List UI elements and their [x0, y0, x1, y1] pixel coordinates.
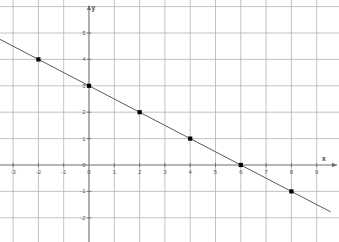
- y-tick-label: -1: [80, 188, 85, 194]
- y-tick-label: 0: [82, 162, 85, 168]
- line-series: [0, 39, 331, 212]
- data-point: [239, 163, 243, 167]
- axes-lines: [0, 5, 337, 242]
- data-point: [188, 137, 192, 141]
- y-tick-label: -2: [80, 215, 85, 221]
- x-axis-label: x: [322, 156, 326, 163]
- y-axis-label: y: [92, 5, 96, 12]
- data-point: [36, 57, 40, 61]
- x-tick-label: 2: [138, 169, 141, 175]
- data-point: [289, 189, 293, 193]
- x-tick-label: -3: [10, 169, 15, 175]
- x-tick-label: 1: [113, 169, 116, 175]
- x-tick-label: 7: [264, 169, 267, 175]
- vertical-gridlines: [13, 0, 317, 242]
- data-point: [87, 84, 91, 88]
- x-tick-label: 5: [214, 169, 217, 175]
- x-tick-label: 9: [315, 169, 318, 175]
- graph-figure: -3-2-10123456789-2-1012345 x y: [0, 0, 339, 242]
- x-tick-label: -1: [61, 169, 66, 175]
- x-tick-label: 6: [239, 169, 242, 175]
- y-tick-label: 4: [82, 56, 85, 62]
- plot-canvas: [0, 0, 339, 242]
- y-tick-label: 5: [82, 30, 85, 36]
- x-tick-label: -2: [36, 169, 41, 175]
- x-tick-label: 8: [290, 169, 293, 175]
- y-tick-label: 1: [82, 136, 85, 142]
- y-tick-label: 2: [82, 109, 85, 115]
- x-tick-label: 0: [87, 169, 90, 175]
- x-tick-label: 3: [163, 169, 166, 175]
- data-point: [138, 110, 142, 114]
- x-tick-label: 4: [189, 169, 192, 175]
- y-tick-label: 3: [82, 83, 85, 89]
- horizontal-gridlines: [0, 7, 339, 218]
